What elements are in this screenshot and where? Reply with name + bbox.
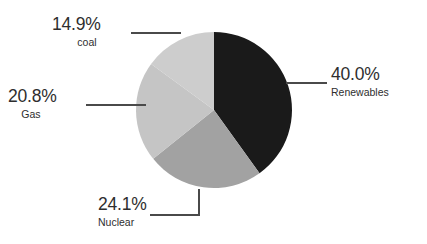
- pie-label-nuclear-value: 24.1%: [98, 196, 147, 214]
- pie-label-gas-name: Gas: [8, 109, 41, 120]
- pie-label-gas: 20.8% Gas: [8, 88, 57, 119]
- pie-label-nuclear-name: Nuclear: [98, 217, 147, 228]
- pie-slices: [136, 32, 292, 188]
- leader-line-nuclear: [150, 189, 199, 215]
- pie-chart: 14.9% coal 20.8% Gas 24.1% Nuclear 40.0%…: [0, 0, 427, 244]
- pie-label-coal: 14.9% coal: [52, 16, 101, 47]
- pie-label-coal-value: 14.9%: [52, 16, 101, 34]
- pie-label-nuclear: 24.1% Nuclear: [98, 196, 147, 227]
- pie-label-gas-value: 20.8%: [8, 88, 57, 106]
- pie-label-renewables-value: 40.0%: [331, 66, 389, 84]
- pie-label-coal-name: coal: [52, 37, 97, 48]
- pie-label-renewables-name: Renewables: [331, 87, 389, 98]
- pie-label-renewables: 40.0% Renewables: [331, 66, 389, 97]
